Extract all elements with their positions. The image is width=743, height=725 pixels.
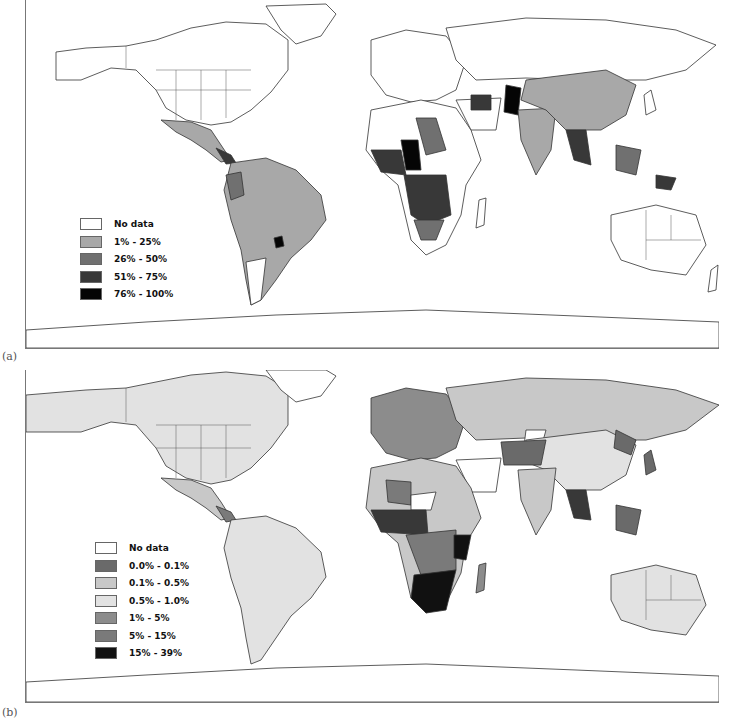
legend-item: 0.5% - 1.0% [95,593,189,609]
legend-label: 0.5% - 1.0% [129,596,189,606]
legend-item: No data [80,216,173,232]
panel-label-a: (a) [2,350,17,363]
legend-item: 15% - 39% [95,645,189,661]
legend-item: No data [95,540,189,556]
legend-label: 76% - 100% [114,289,173,299]
legend-b: No data 0.0% - 0.1% 0.1% - 0.5% 0.5% - 1… [95,540,189,663]
legend-label: 26% - 50% [114,254,167,264]
legend-label: No data [129,543,169,553]
legend-swatch [80,271,102,283]
legend-swatch [80,236,102,248]
legend-item: 1% - 5% [95,610,189,626]
legend-swatch [80,218,102,230]
legend-swatch [80,253,102,265]
legend-label: 0.1% - 0.5% [129,578,189,588]
legend-label: 1% - 5% [129,613,170,623]
legend-item: 1% - 25% [80,234,173,250]
legend-label: 5% - 15% [129,631,176,641]
legend-label: 1% - 25% [114,237,161,247]
legend-label: 0.0% - 0.1% [129,561,189,571]
legend-item: 5% - 15% [95,628,189,644]
legend-swatch [95,595,117,607]
legend-item: 0.0% - 0.1% [95,558,189,574]
legend-item: 51% - 75% [80,269,173,285]
legend-swatch [95,577,117,589]
legend-item: 26% - 50% [80,251,173,267]
legend-swatch [95,612,117,624]
legend-swatch [95,560,117,572]
legend-swatch [95,542,117,554]
map-panel-b: No data 0.0% - 0.1% 0.1% - 0.5% 0.5% - 1… [0,370,743,725]
panel-label-b: (b) [2,706,18,719]
legend-label: No data [114,219,154,229]
legend-swatch [95,630,117,642]
legend-swatch [95,647,117,659]
legend-label: 15% - 39% [129,648,182,658]
legend-item: 0.1% - 0.5% [95,575,189,591]
legend-a: No data 1% - 25% 26% - 50% 51% - 75% 76%… [80,216,173,304]
legend-swatch [80,288,102,300]
legend-item: 76% - 100% [80,286,173,302]
map-panel-a: No data 1% - 25% 26% - 50% 51% - 75% 76%… [0,0,743,370]
legend-label: 51% - 75% [114,272,167,282]
